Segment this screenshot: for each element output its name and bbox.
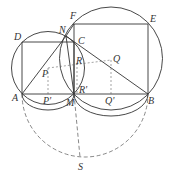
- label-b: B: [148, 95, 154, 106]
- label-a: A: [11, 92, 19, 103]
- label-p: P: [41, 68, 48, 79]
- label-r-prime: R': [78, 84, 88, 95]
- label-n: N: [58, 24, 67, 35]
- label-s: S: [78, 161, 83, 172]
- label-p-prime: P': [42, 95, 52, 106]
- label-f: F: [69, 10, 77, 21]
- label-c: C: [78, 35, 85, 46]
- label-q: Q: [113, 53, 121, 64]
- line-nf: [66, 24, 74, 36]
- line-an: [22, 36, 66, 94]
- label-q-prime: Q': [105, 95, 115, 106]
- geometry-diagram: A P' M R' Q' B D N F C E P R Q S: [0, 0, 169, 185]
- label-e: E: [149, 13, 156, 24]
- label-m: M: [65, 97, 75, 108]
- label-d: D: [13, 31, 22, 42]
- label-r: R: [75, 55, 82, 66]
